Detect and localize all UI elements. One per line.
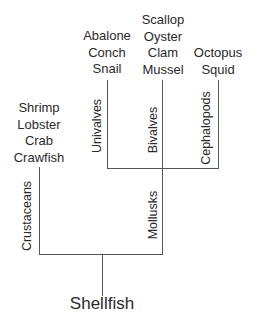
- item-crawfish: Crawfish: [4, 150, 74, 167]
- item-oyster: Oyster: [128, 29, 198, 46]
- item-scallop: Scallop: [128, 12, 198, 29]
- mollusks-label: Mollusks: [146, 183, 162, 247]
- root-crossbar: [39, 254, 163, 255]
- cephalopods-items: Octopus Squid: [183, 45, 253, 78]
- univalves-line: [107, 80, 108, 168]
- item-squid: Squid: [183, 62, 253, 79]
- crustaceans-label: Crustaceans: [20, 176, 36, 256]
- crustaceans-items: Shrimp Lobster Crab Crawfish: [4, 100, 74, 166]
- root-label: Shellfish: [52, 294, 152, 314]
- item-lobster: Lobster: [4, 117, 74, 134]
- item-shrimp: Shrimp: [4, 100, 74, 117]
- item-octopus: Octopus: [183, 45, 253, 62]
- mollusks-line: [162, 168, 163, 254]
- bivalves-label: Bivalves: [146, 100, 162, 160]
- univalves-label: Univalves: [90, 96, 106, 156]
- cephalopods-line: [218, 80, 219, 168]
- mollusks-crossbar: [107, 168, 219, 169]
- root-stem: [102, 254, 103, 296]
- bivalves-line: [162, 80, 163, 168]
- crustaceans-line: [39, 167, 40, 254]
- item-crab: Crab: [4, 133, 74, 150]
- cephalopods-label: Cephalopods: [199, 88, 215, 168]
